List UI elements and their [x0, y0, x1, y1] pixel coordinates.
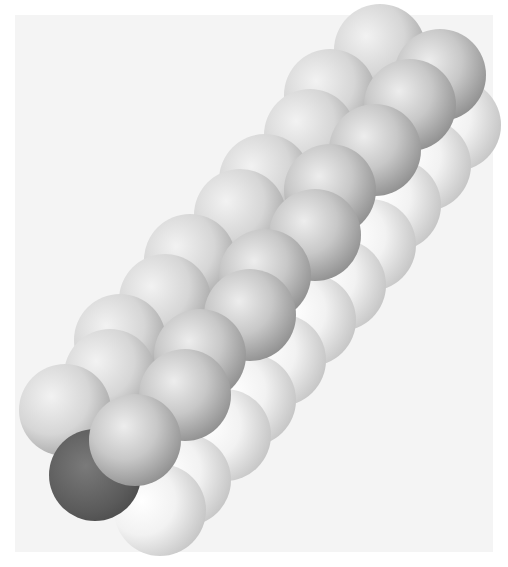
molecule-model	[0, 0, 508, 567]
hydrogen-atom-front	[89, 394, 181, 486]
